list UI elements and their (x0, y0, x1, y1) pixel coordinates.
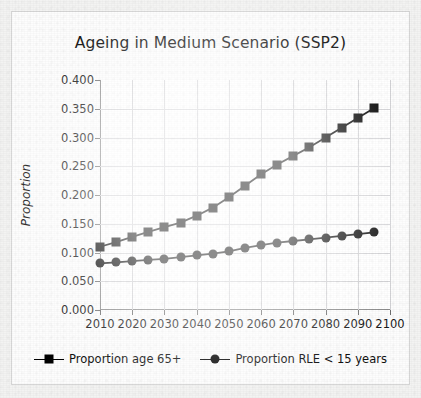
data-point-marker (337, 231, 346, 240)
x-axis-tick (164, 310, 165, 315)
x-axis-tick (293, 310, 294, 315)
legend-key-marker (45, 354, 54, 363)
data-point-marker (353, 230, 362, 239)
data-point-marker (289, 237, 298, 246)
legend-entry[interactable]: Proportion age 65+ (34, 352, 181, 366)
y-axis-title: Proportion (19, 164, 33, 226)
legend-entry[interactable]: Proportion RLE < 15 years (200, 352, 387, 366)
y-axis-tick-label: 0.000 (61, 303, 94, 317)
data-point-marker (208, 249, 217, 258)
data-point-marker (337, 123, 346, 132)
x-axis-tick-labels: 2010202020302040205020602070208020902100 (100, 317, 390, 335)
x-axis-tick (358, 310, 359, 315)
y-axis-tick-label: 0.100 (61, 246, 94, 260)
data-point-marker (289, 151, 298, 160)
y-axis-tick-label: 0.200 (61, 188, 94, 202)
x-axis-tick (132, 310, 133, 315)
legend-label: Proportion RLE < 15 years (235, 352, 387, 366)
data-point-marker (273, 160, 282, 169)
data-point-marker (144, 255, 153, 264)
x-axis-tick-label: 2060 (246, 317, 275, 331)
data-point-marker (305, 143, 314, 152)
data-point-marker (224, 193, 233, 202)
data-point-marker (273, 238, 282, 247)
square-marker-icon (34, 354, 64, 365)
data-point-marker (321, 133, 330, 142)
data-point-marker (321, 233, 330, 242)
data-point-marker (160, 254, 169, 263)
data-point-marker (224, 247, 233, 256)
y-axis-tick-label: 0.250 (61, 159, 94, 173)
data-point-marker (369, 104, 378, 113)
y-axis-tick-label: 0.400 (61, 73, 94, 87)
y-axis-tick-labels: 0.0000.0500.1000.1500.2000.2500.3000.350… (42, 80, 94, 310)
x-axis-tick-label: 2010 (85, 317, 114, 331)
legend-label: Proportion age 65+ (69, 352, 181, 366)
data-point-marker (128, 257, 137, 266)
y-axis-tick-label: 0.050 (61, 274, 94, 288)
data-point-marker (369, 228, 378, 237)
legend-key-marker (211, 354, 220, 363)
data-point-marker (128, 232, 137, 241)
plot-area (100, 80, 390, 310)
x-axis-tick-label: 2040 (182, 317, 211, 331)
series-markers (100, 80, 390, 310)
circle-marker-icon (200, 354, 230, 365)
data-point-marker (112, 258, 121, 267)
data-point-marker (112, 238, 121, 247)
data-point-marker (176, 253, 185, 262)
x-axis-tick (261, 310, 262, 315)
x-axis-tick-label: 2080 (311, 317, 340, 331)
y-axis-tick-label: 0.350 (61, 102, 94, 116)
data-point-marker (241, 181, 250, 190)
data-point-marker (144, 227, 153, 236)
y-axis-tick-label: 0.150 (61, 217, 94, 231)
chart-title: Ageing in Medium Scenario (SSP2) (12, 34, 409, 52)
x-axis-tick (229, 310, 230, 315)
data-point-marker (96, 242, 105, 251)
data-point-marker (96, 259, 105, 268)
data-point-marker (160, 223, 169, 232)
gridline-vertical (390, 80, 391, 310)
data-point-marker (192, 251, 201, 260)
x-axis-tick (390, 310, 391, 315)
data-point-marker (192, 211, 201, 220)
data-point-marker (305, 235, 314, 244)
chart-legend: Proportion age 65+Proportion RLE < 15 ye… (12, 352, 409, 366)
x-axis-tick (100, 310, 101, 315)
x-axis-tick (326, 310, 327, 315)
x-axis-tick-label: 2020 (118, 317, 147, 331)
x-axis-tick-label: 2100 (375, 317, 404, 331)
chart-card: Ageing in Medium Scenario (SSP2) Proport… (12, 12, 409, 384)
x-axis-tick-label: 2050 (214, 317, 243, 331)
data-point-marker (353, 113, 362, 122)
data-point-marker (241, 243, 250, 252)
y-axis-tick-label: 0.300 (61, 131, 94, 145)
x-axis-tick (197, 310, 198, 315)
data-point-marker (257, 170, 266, 179)
data-point-marker (208, 203, 217, 212)
x-axis-tick-label: 2030 (150, 317, 179, 331)
screenshot-root: Ageing in Medium Scenario (SSP2) Proport… (0, 0, 421, 398)
x-axis-tick-label: 2070 (279, 317, 308, 331)
data-point-marker (176, 218, 185, 227)
data-point-marker (257, 241, 266, 250)
x-axis-tick-label: 2090 (343, 317, 372, 331)
